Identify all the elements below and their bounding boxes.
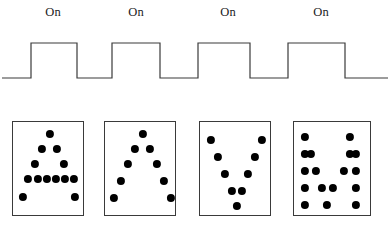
- stimulus-dot: [329, 184, 337, 192]
- stimulus-dot: [70, 175, 78, 183]
- stimulus-dot: [110, 194, 118, 202]
- stimulus-dot: [228, 187, 236, 195]
- stimulus-dot: [301, 133, 309, 141]
- stimulus-dot: [52, 175, 60, 183]
- stimulus-dot: [131, 145, 139, 153]
- stimulus-dot: [352, 201, 360, 209]
- stimulus-dot: [352, 167, 360, 175]
- stimulus-dot: [238, 187, 246, 195]
- on-label-2: On: [128, 6, 144, 19]
- stimulus-dot: [244, 170, 252, 178]
- stimulus-dot: [251, 153, 259, 161]
- stimulus-dot: [221, 170, 229, 178]
- on-label-4: On: [313, 6, 329, 19]
- stimulus-dot: [312, 167, 320, 175]
- stimulus-panel-4: [293, 121, 371, 216]
- stimulus-dot: [160, 177, 168, 185]
- stimulus-dot: [117, 177, 125, 185]
- stimulus-dot: [153, 160, 161, 168]
- stimulus-dot: [258, 136, 266, 144]
- stimulus-dot: [301, 201, 309, 209]
- square-wave-line: [2, 43, 388, 78]
- stimulus-dot: [301, 184, 309, 192]
- stimulus-dot: [323, 201, 331, 209]
- stimulus-dot: [24, 175, 32, 183]
- stimulus-dot: [146, 145, 154, 153]
- on-label-1: On: [45, 6, 61, 19]
- stimulus-dot: [307, 150, 315, 158]
- stimulus-dot: [340, 167, 348, 175]
- stimulus-dot: [60, 160, 68, 168]
- on-label-3: On: [220, 6, 236, 19]
- stimulus-dot: [31, 160, 39, 168]
- stimulus-dot: [318, 184, 326, 192]
- stimulus-dot: [43, 175, 51, 183]
- stimulus-dot: [233, 202, 241, 210]
- stimulus-dot: [352, 184, 360, 192]
- stimulus-dot: [34, 175, 42, 183]
- stimulus-timing-figure: OnOnOnOn: [0, 0, 391, 233]
- stimulus-dot: [214, 153, 222, 161]
- stimulus-dot: [71, 193, 79, 201]
- stimulus-dot: [38, 145, 46, 153]
- stimulus-dot: [124, 160, 132, 168]
- stimulus-dot: [352, 150, 360, 158]
- stimulus-dot: [46, 130, 54, 138]
- stimulus-panel-1: [12, 121, 84, 216]
- stimulus-dot: [301, 167, 309, 175]
- stimulus-panel-2: [104, 121, 176, 216]
- stimulus-dot: [61, 175, 69, 183]
- stimulus-panel-3: [199, 121, 271, 216]
- stimulus-dot: [346, 133, 354, 141]
- stimulus-dot: [139, 130, 147, 138]
- stimulus-dot: [53, 145, 61, 153]
- stimulus-dot: [167, 194, 175, 202]
- stimulus-dot: [207, 136, 215, 144]
- stimulus-dot: [19, 193, 27, 201]
